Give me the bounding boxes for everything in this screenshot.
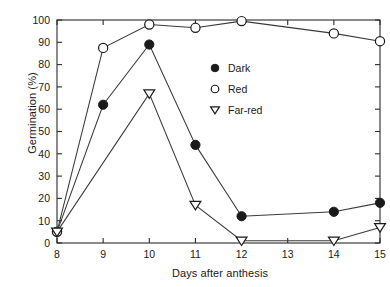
series-far-red: [52, 90, 386, 246]
data-point-filled-circle: [237, 212, 246, 221]
y-tick-label: 20: [38, 192, 50, 204]
x-axis-label-wrapper: Days after anthesis: [55, 263, 385, 281]
data-point-filled-circle: [99, 100, 108, 109]
data-point-filled-circle: [375, 198, 384, 207]
legend-item-dark: Dark: [211, 62, 251, 74]
x-tick-label: 14: [328, 248, 340, 260]
data-point-open-triangle-down: [375, 224, 386, 232]
x-tick-label: 15: [374, 248, 386, 260]
germination-chart-figure: 010203040506070809010089101112131415 Dar…: [0, 0, 390, 287]
x-tick-label: 8: [54, 248, 60, 260]
chart-plot-area: 010203040506070809010089101112131415 Dar…: [0, 0, 390, 287]
series-line: [57, 45, 380, 232]
y-tick-label: 0: [44, 237, 50, 249]
data-point-open-circle: [99, 43, 108, 52]
y-tick-label: 50: [38, 125, 50, 137]
chart-legend: DarkRedFar-red: [211, 62, 263, 116]
data-point-open-circle: [191, 23, 200, 32]
data-point-open-circle: [145, 20, 154, 29]
series-red: [52, 17, 384, 237]
data-point-open-circle: [329, 29, 338, 38]
x-tick-label: 9: [100, 248, 106, 260]
y-tick-label: 100: [32, 14, 50, 26]
data-point-open-triangle-down: [144, 90, 155, 98]
data-point-filled-circle: [191, 140, 200, 149]
y-tick-label: 90: [38, 36, 50, 48]
data-point-filled-circle: [145, 40, 154, 49]
data-point-open-triangle-down: [211, 107, 220, 114]
y-tick-label: 80: [38, 58, 50, 70]
y-tick-label: 10: [38, 215, 50, 227]
x-tick-label: 10: [143, 248, 155, 260]
legend-label: Dark: [228, 62, 251, 74]
series-line: [57, 94, 380, 241]
y-axis-label-wrapper: Germination (%): [22, 58, 40, 168]
data-point-open-circle: [375, 37, 384, 46]
legend-item-red: Red: [211, 83, 247, 95]
y-tick-label: 40: [38, 148, 50, 160]
x-tick-label: 12: [236, 248, 248, 260]
x-tick-label: 13: [282, 248, 294, 260]
data-point-filled-circle: [211, 64, 219, 72]
data-series: [52, 17, 386, 246]
y-tick-label: 60: [38, 103, 50, 115]
x-axis-label: Days after anthesis: [172, 267, 268, 279]
y-axis-label: Germination (%): [26, 72, 38, 154]
data-point-open-circle: [237, 17, 246, 26]
tick-labels: 010203040506070809010089101112131415: [32, 14, 386, 260]
series-line: [57, 21, 380, 232]
x-tick-label: 11: [190, 248, 201, 260]
legend-label: Far-red: [228, 104, 263, 116]
y-tick-label: 30: [38, 170, 50, 182]
legend-label: Red: [228, 83, 247, 95]
data-point-open-circle: [211, 85, 219, 93]
y-tick-label: 70: [38, 81, 50, 93]
legend-item-far-red: Far-red: [211, 104, 263, 116]
data-point-filled-circle: [329, 207, 338, 216]
